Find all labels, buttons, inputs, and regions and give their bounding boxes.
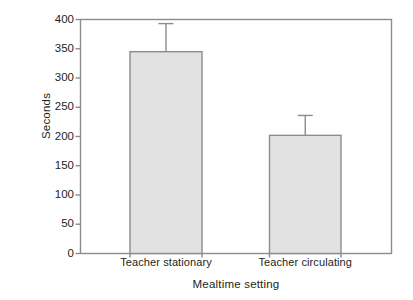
y-tick-label: 400	[44, 14, 74, 26]
bar	[130, 52, 202, 254]
bar	[270, 135, 342, 253]
bar-chart-figure: 050100150200250300350400 Teacher station…	[0, 0, 413, 300]
x-tick-label: Teacher stationary	[86, 256, 246, 268]
y-tick-label: 50	[44, 218, 74, 230]
x-axis-title: Mealtime setting	[80, 278, 392, 290]
y-tick-label: 150	[44, 160, 74, 172]
y-tick-label: 100	[44, 189, 74, 201]
y-tick-label: 0	[44, 248, 74, 260]
y-axis-title: Seconds	[40, 76, 52, 156]
x-tick-label: Teacher circulating	[225, 256, 385, 268]
y-tick-label: 350	[44, 43, 74, 55]
